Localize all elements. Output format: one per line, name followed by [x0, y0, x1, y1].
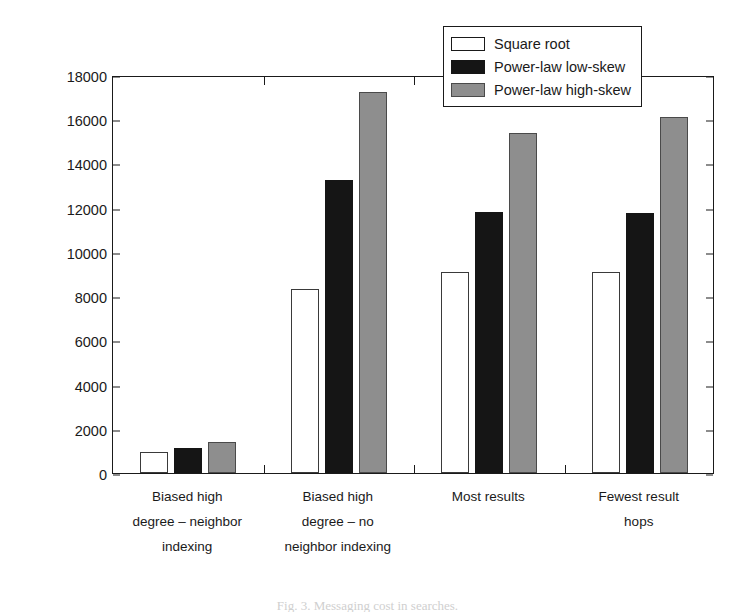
- plot-area: 0200040006000800010000120001400016000180…: [112, 76, 714, 474]
- x-axis-group-label-1: Biased high degree – neighbor indexing: [112, 484, 263, 559]
- bar-power-law-low-skew-group-3: [475, 212, 503, 473]
- bar-power-law-low-skew-group-2: [325, 180, 353, 473]
- y-tick-mark-right: [706, 386, 713, 387]
- y-tick-mark: [113, 165, 120, 166]
- legend-label-power-law-high-skew: Power-law high-skew: [494, 82, 631, 98]
- y-tick-label: 14000: [37, 157, 107, 173]
- y-tick-label: 4000: [37, 379, 107, 395]
- y-tick-mark: [113, 298, 120, 299]
- y-tick-mark-right: [706, 253, 713, 254]
- bar-power-law-low-skew-group-1: [174, 448, 202, 473]
- bar-square-root-group-4: [592, 272, 620, 473]
- bar-square-root-group-2: [291, 289, 319, 473]
- x-tick-mark-top: [264, 77, 265, 85]
- x-tick-mark-bottom: [414, 465, 415, 473]
- y-tick-mark-right: [706, 77, 713, 78]
- bar-power-law-high-skew-group-2: [359, 92, 387, 473]
- y-tick-label: 6000: [37, 334, 107, 350]
- y-tick-label: 10000: [37, 246, 107, 262]
- legend-label-square-root: Square root: [494, 36, 570, 52]
- y-tick-mark-right: [706, 165, 713, 166]
- y-tick-mark: [113, 430, 120, 431]
- x-tick-mark-bottom: [264, 465, 265, 473]
- y-tick-mark-right: [706, 342, 713, 343]
- y-tick-mark-right: [706, 430, 713, 431]
- y-tick-mark-right: [706, 121, 713, 122]
- y-tick-mark-right: [706, 475, 713, 476]
- x-axis-group-label-2: Biased high degree – no neighbor indexin…: [263, 484, 414, 559]
- chart-legend: Square root Power-law low-skew Power-law…: [443, 26, 642, 107]
- x-tick-mark-top: [414, 77, 415, 85]
- y-tick-label: 18000: [37, 69, 107, 85]
- y-tick-mark: [113, 342, 120, 343]
- y-tick-label: 2000: [37, 423, 107, 439]
- bar-power-law-low-skew-group-4: [626, 213, 654, 473]
- y-tick-mark: [113, 475, 120, 476]
- y-tick-mark-right: [706, 209, 713, 210]
- bar-power-law-high-skew-group-3: [509, 133, 537, 474]
- x-axis-group-label-3: Most results: [413, 484, 564, 509]
- y-tick-label: 16000: [37, 113, 107, 129]
- bar-square-root-group-3: [441, 272, 469, 473]
- y-tick-label: 12000: [37, 202, 107, 218]
- x-axis-group-label-4: Fewest result hops: [564, 484, 715, 534]
- y-tick-mark: [113, 77, 120, 78]
- bar-power-law-high-skew-group-4: [660, 117, 688, 473]
- y-tick-mark: [113, 121, 120, 122]
- x-tick-mark-bottom: [565, 465, 566, 473]
- figure-container: Square root Power-law low-skew Power-law…: [0, 0, 735, 612]
- legend-swatch-power-law-high-skew: [451, 83, 485, 97]
- y-tick-mark: [113, 253, 120, 254]
- legend-item-square-root: Square root: [451, 32, 631, 55]
- figure-caption: Fig. 3. Messaging cost in searches.: [0, 598, 735, 612]
- legend-swatch-square-root: [451, 37, 485, 51]
- legend-item-power-law-low-skew: Power-law low-skew: [451, 55, 631, 78]
- bar-square-root-group-1: [140, 452, 168, 473]
- y-tick-mark: [113, 209, 120, 210]
- legend-item-power-law-high-skew: Power-law high-skew: [451, 78, 631, 101]
- y-tick-label: 8000: [37, 290, 107, 306]
- legend-label-power-law-low-skew: Power-law low-skew: [494, 59, 625, 75]
- y-tick-label: 0: [37, 467, 107, 483]
- bar-power-law-high-skew-group-1: [208, 442, 236, 473]
- legend-swatch-power-law-low-skew: [451, 60, 485, 74]
- y-tick-mark-right: [706, 298, 713, 299]
- y-tick-mark: [113, 386, 120, 387]
